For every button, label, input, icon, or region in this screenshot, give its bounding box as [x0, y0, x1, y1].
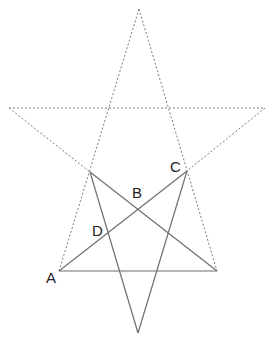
dashed-edge-right-to-C: [187, 108, 265, 171]
label-D: D: [92, 222, 103, 239]
label-C: C: [170, 158, 181, 175]
label-A: A: [46, 269, 56, 286]
solid-edge-C-to-bottom: [138, 171, 187, 333]
star-diagram: A B C D: [0, 0, 273, 345]
solid-edge-inner-to-bottom-right: [90, 172, 217, 271]
solid-edge-inner-to-bottom: [90, 172, 138, 333]
dashed-edge-top-to-bottom-right: [139, 9, 217, 271]
dashed-edge-left-to-inner: [9, 108, 90, 172]
solid-edge-A-to-C: [59, 171, 187, 271]
dashed-outer-star: [9, 9, 265, 271]
label-B: B: [132, 184, 142, 201]
